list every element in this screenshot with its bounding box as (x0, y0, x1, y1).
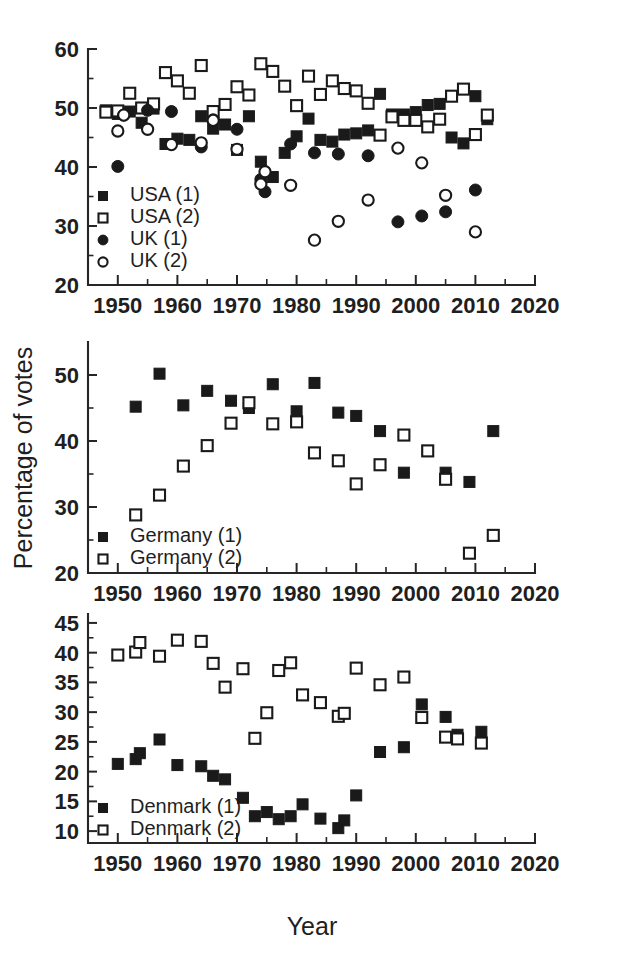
marker-filled-square (249, 811, 260, 822)
marker-filled-square (434, 98, 445, 109)
legend-label: USA (1) (130, 183, 200, 205)
marker-open-square (309, 447, 320, 458)
marker-open-square (327, 75, 338, 86)
legend-label: UK (1) (130, 227, 188, 249)
marker-open-square (398, 672, 409, 683)
marker-open-square (488, 530, 499, 541)
panel-middle-legend: Germany (1)Germany (2) (98, 524, 242, 568)
marker-open-square (458, 84, 469, 95)
panel-bottom-xtick-label: 1970 (213, 851, 262, 876)
marker-filled-square (172, 760, 183, 771)
marker-open-square (98, 213, 107, 222)
marker-filled-circle (392, 216, 404, 228)
marker-filled-square (130, 401, 141, 412)
marker-open-square (255, 58, 266, 69)
figure-root: 2030405060195019601970198019902000201020… (0, 0, 639, 961)
marker-open-square (375, 459, 386, 470)
panel-top-xtick-label: 1990 (332, 293, 381, 318)
marker-filled-square (220, 774, 231, 785)
marker-filled-square (154, 734, 165, 745)
marker-open-circle (285, 180, 296, 191)
marker-filled-square (291, 406, 302, 417)
marker-filled-square (351, 128, 362, 139)
marker-filled-circle (285, 138, 297, 150)
marker-filled-square (398, 467, 409, 478)
marker-filled-square (464, 476, 475, 487)
marker-open-square (440, 474, 451, 485)
panel-middle-xtick-label: 1970 (213, 581, 262, 606)
marker-open-circle (363, 194, 374, 205)
marker-filled-square (333, 407, 344, 418)
marker-open-square (261, 707, 272, 718)
panel-middle-xtick-label: 2020 (511, 581, 560, 606)
marker-open-square (303, 71, 314, 82)
panel-bottom-xtick-label: 1980 (272, 851, 321, 876)
marker-open-square (410, 115, 421, 126)
marker-open-square (208, 658, 219, 669)
marker-filled-square (178, 400, 189, 411)
marker-open-square (297, 689, 308, 700)
marker-open-square (464, 548, 475, 559)
panel-bottom-xtick-label: 2010 (451, 851, 500, 876)
marker-open-square (422, 445, 433, 456)
panel-bottom-ytick-label: 25 (55, 730, 79, 755)
marker-filled-circle (469, 184, 481, 196)
marker-filled-square (202, 385, 213, 396)
marker-open-square (470, 129, 481, 140)
marker-open-square (154, 651, 165, 662)
marker-open-square (279, 81, 290, 92)
panel-top-xtick-label: 1970 (213, 293, 262, 318)
marker-open-square (243, 90, 254, 101)
marker-open-circle (255, 179, 266, 190)
marker-open-square (98, 825, 107, 834)
marker-open-square (273, 665, 284, 676)
marker-open-square (351, 663, 362, 674)
marker-open-circle (231, 144, 242, 155)
marker-filled-circle (165, 106, 177, 118)
panel-middle-ytick-label: 40 (55, 429, 79, 454)
marker-open-square (196, 636, 207, 647)
marker-filled-square (112, 758, 123, 769)
marker-open-circle (112, 125, 123, 136)
marker-filled-circle (440, 206, 452, 218)
marker-filled-square (375, 426, 386, 437)
marker-open-square (130, 509, 141, 520)
marker-filled-circle (332, 148, 344, 160)
marker-open-square (112, 650, 123, 661)
marker-filled-square (208, 770, 219, 781)
panel-middle-xtick-label: 2010 (451, 581, 500, 606)
marker-open-square (98, 554, 107, 563)
panel-bottom-xtick-label: 1990 (332, 851, 381, 876)
panel-middle-xtick-label: 1990 (332, 581, 381, 606)
marker-open-square (452, 733, 463, 744)
marker-filled-square (458, 138, 469, 149)
marker-filled-square (184, 134, 195, 145)
marker-filled-square (98, 532, 107, 541)
marker-open-square (220, 99, 231, 110)
panel-middle-ytick-label: 50 (55, 363, 79, 388)
marker-open-square (339, 83, 350, 94)
panel-top-xtick-label: 2010 (451, 293, 500, 318)
marker-open-square (375, 130, 386, 141)
marker-open-square (267, 418, 278, 429)
marker-open-circle (166, 139, 177, 150)
marker-open-square (315, 697, 326, 708)
panel-middle-ytick-label: 30 (55, 495, 79, 520)
legend-label: Denmark (1) (130, 795, 241, 817)
panel-bottom-xtick-label: 1960 (153, 851, 202, 876)
marker-filled-circle (98, 235, 108, 245)
marker-open-square (315, 89, 326, 100)
panel-top-xtick-label: 2020 (511, 293, 560, 318)
marker-filled-square (297, 799, 308, 810)
marker-filled-square (398, 742, 409, 753)
panel-top-ytick-label: 30 (55, 214, 79, 239)
marker-filled-square (243, 111, 254, 122)
panel-bottom-ytick-label: 20 (55, 760, 79, 785)
marker-open-square (184, 88, 195, 99)
marker-filled-square (154, 368, 165, 379)
marker-open-square (232, 81, 243, 92)
marker-open-square (237, 663, 248, 674)
y-axis-title: Percentage of votes (9, 347, 37, 569)
marker-open-square (249, 733, 260, 744)
marker-open-square (226, 418, 237, 429)
